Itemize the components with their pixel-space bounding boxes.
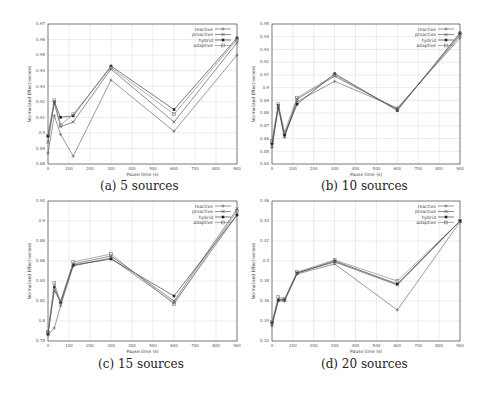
caption-a: (a) 5 sources — [100, 179, 179, 193]
y-tick-label: 0.9 — [39, 130, 46, 135]
x-tick-label: 100 — [65, 343, 73, 348]
x-tick-label: 100 — [289, 166, 297, 171]
series-proactive — [270, 34, 461, 147]
legend-label: hybrid — [422, 215, 436, 220]
series-reactive — [46, 213, 238, 336]
y-tick-label: 0.94 — [260, 34, 269, 39]
x-tick-label: 400 — [128, 166, 136, 171]
line-chart-c: 0.780.80.820.840.860.880.90.920100200300… — [0, 195, 245, 360]
y-axis-label: Normalized Effectiveness — [27, 65, 32, 123]
legend-label: reactive — [195, 204, 213, 209]
y-tick-label: 0.91 — [36, 115, 45, 120]
y-tick-label: 0.95 — [260, 21, 269, 26]
line-chart-a: 0.880.890.90.910.920.930.940.950.960.970… — [0, 0, 245, 180]
y-tick-label: 0.88 — [36, 161, 45, 166]
x-tick-label: 400 — [352, 166, 360, 171]
caption-d: (d) 20 sources — [321, 357, 408, 371]
series-hybrid — [271, 220, 462, 325]
x-tick-label: 900 — [233, 343, 241, 348]
line-chart-d: 0.320.340.360.380.40.420.440.46010020030… — [245, 195, 487, 360]
x-tick-label: 200 — [310, 343, 318, 348]
y-tick-label: 0.82 — [36, 298, 45, 303]
x-tick-label: 500 — [149, 166, 157, 171]
x-tick-label: 600 — [170, 166, 178, 171]
x-tick-label: 0 — [271, 166, 274, 171]
x-axis-label: Pause time (s) — [126, 349, 158, 354]
y-tick-label: 0.38 — [260, 278, 269, 283]
x-tick-label: 100 — [65, 166, 73, 171]
legend-label: hybrid — [199, 38, 213, 43]
y-tick-label: 0.91 — [260, 72, 269, 77]
chart-panel-b: 0.840.850.860.870.880.890.90.910.920.930… — [245, 0, 487, 197]
x-tick-label: 0 — [47, 343, 50, 348]
x-tick-label: 500 — [373, 166, 381, 171]
legend-label: reactive — [418, 204, 436, 209]
y-axis-label: Normalized Effectiveness — [251, 242, 256, 300]
x-tick-label: 300 — [107, 343, 115, 348]
x-tick-label: 900 — [456, 166, 464, 171]
x-tick-label: 900 — [233, 166, 241, 171]
y-tick-label: 0.86 — [36, 258, 45, 263]
legend-label: hybrid — [199, 215, 213, 220]
y-tick-label: 0.42 — [260, 238, 269, 243]
x-tick-label: 700 — [191, 343, 199, 348]
legend-label: adaptive — [193, 43, 213, 48]
x-tick-label: 0 — [47, 166, 50, 171]
y-tick-label: 0.46 — [260, 198, 269, 203]
y-tick-label: 0.84 — [36, 278, 45, 283]
x-tick-label: 600 — [170, 343, 178, 348]
series-adaptive — [47, 210, 239, 334]
series-adaptive — [271, 220, 462, 324]
y-tick-label: 0.85 — [260, 149, 269, 154]
x-tick-label: 800 — [212, 343, 220, 348]
x-tick-label: 200 — [86, 166, 94, 171]
x-tick-label: 800 — [212, 166, 220, 171]
y-tick-label: 0.95 — [36, 52, 45, 57]
y-tick-label: 0.94 — [36, 68, 45, 73]
caption-c: (c) 15 sources — [98, 357, 184, 371]
y-tick-label: 0.86 — [260, 136, 269, 141]
chart-panel-a: 0.880.890.90.910.920.930.940.950.960.970… — [0, 0, 245, 197]
y-tick-label: 0.92 — [260, 59, 269, 64]
x-tick-label: 900 — [456, 343, 464, 348]
x-tick-label: 800 — [435, 166, 443, 171]
x-tick-label: 500 — [149, 343, 157, 348]
x-tick-label: 0 — [271, 343, 274, 348]
legend-label: proactive — [192, 209, 213, 214]
y-tick-label: 0.92 — [36, 99, 45, 104]
y-tick-label: 0.89 — [260, 98, 269, 103]
y-tick-label: 0.44 — [260, 218, 269, 223]
y-tick-label: 0.32 — [260, 338, 269, 343]
y-tick-label: 0.92 — [36, 198, 45, 203]
x-axis-label: Pause time (s) — [350, 172, 382, 177]
series-hybrid — [47, 214, 239, 336]
y-tick-label: 0.34 — [260, 318, 269, 323]
legend-label: proactive — [415, 32, 436, 37]
x-tick-label: 700 — [191, 166, 199, 171]
y-tick-label: 0.4 — [263, 258, 270, 263]
caption-b: (b) 10 sources — [321, 179, 408, 193]
y-tick-label: 0.89 — [36, 146, 45, 151]
y-tick-label: 0.36 — [260, 298, 269, 303]
y-tick-label: 0.97 — [36, 21, 45, 26]
series-hybrid — [271, 32, 462, 145]
legend-label: adaptive — [416, 220, 436, 225]
legend: reactiveproactivehybridadaptive — [415, 27, 454, 49]
x-tick-label: 300 — [331, 343, 339, 348]
y-tick-label: 0.88 — [260, 110, 269, 115]
x-axis-label: Pause time (s) — [350, 349, 382, 354]
y-tick-label: 0.9 — [263, 85, 270, 90]
x-tick-label: 600 — [394, 343, 402, 348]
series-proactive — [46, 207, 238, 334]
x-tick-label: 200 — [86, 343, 94, 348]
y-axis-label: Normalized Effectiveness — [251, 65, 256, 123]
y-tick-label: 0.9 — [39, 218, 46, 223]
legend: reactiveproactivehybridadaptive — [192, 27, 231, 49]
line-chart-b: 0.840.850.860.870.880.890.90.910.920.930… — [245, 0, 487, 180]
y-tick-label: 0.93 — [260, 47, 269, 52]
y-tick-label: 0.96 — [36, 37, 45, 42]
y-tick-label: 0.93 — [36, 84, 45, 89]
legend: reactiveproactivehybridadaptive — [192, 204, 231, 226]
x-tick-label: 300 — [107, 166, 115, 171]
legend-label: adaptive — [193, 220, 213, 225]
